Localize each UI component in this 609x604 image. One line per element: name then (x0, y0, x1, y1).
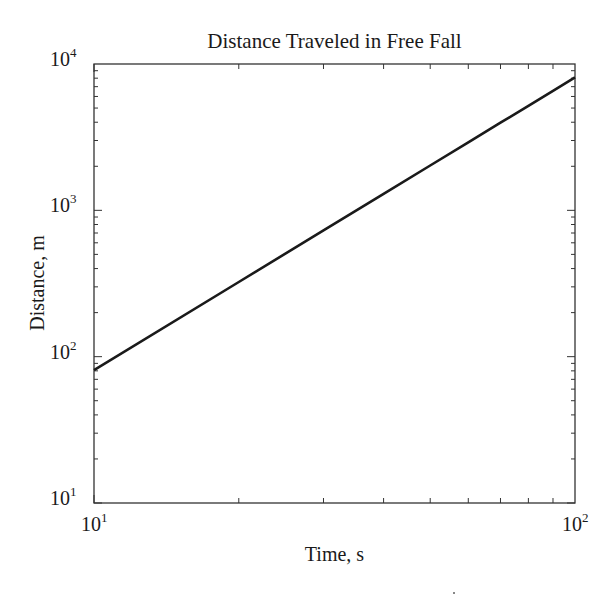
y-tick-label: 103 (50, 194, 77, 217)
data-line-distance (94, 77, 575, 370)
x-tick-label: 101 (81, 513, 108, 536)
x-axis-label: Time, s (94, 543, 575, 566)
y-axis-label: Distance, m (26, 235, 49, 331)
chart-title: Distance Traveled in Free Fall (94, 29, 575, 54)
y-tick-label: 102 (50, 341, 77, 364)
plot-frame (94, 64, 575, 503)
stray-dot (453, 592, 455, 594)
y-tick-label: 101 (50, 487, 77, 510)
x-tick-label: 102 (562, 513, 589, 536)
y-tick-label: 104 (50, 48, 77, 71)
